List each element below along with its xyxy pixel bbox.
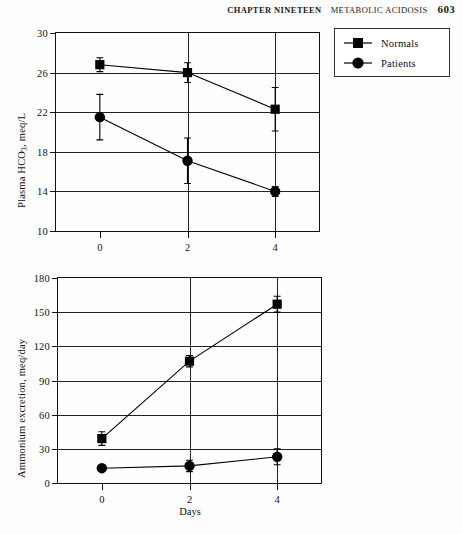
running-head-section: METABOLIC ACIDOSIS (331, 5, 428, 15)
error-bar (96, 58, 103, 72)
y-axis-tick-label: 30 (39, 443, 50, 454)
circle-marker-icon (343, 56, 373, 70)
x-axis-title: Days (179, 506, 201, 517)
error-bar (96, 94, 103, 140)
error-bar (98, 432, 105, 446)
legend-label-normals: Normals (381, 38, 419, 49)
plot-area-bottom: 0306090120150180 024 (57, 277, 322, 484)
y-axis-title-top-tail: , meq/L (16, 113, 27, 147)
y-axis-tick (52, 483, 58, 484)
y-axis-tick (50, 112, 56, 113)
x-axis-tick (277, 483, 278, 490)
y-axis-tick-label: 10 (37, 226, 48, 237)
x-axis-tick-label: 2 (185, 242, 190, 253)
gridline-vertical (275, 33, 276, 231)
y-axis-tick (50, 33, 56, 34)
legend-item-patients: Patients (343, 53, 449, 73)
page-number: 603 (438, 3, 455, 15)
y-axis-tick (50, 73, 56, 74)
y-axis-tick-label: 22 (37, 107, 48, 118)
y-axis-tick-label: 150 (34, 307, 50, 318)
gridline-vertical (188, 33, 189, 231)
running-head: CHAPTER NINETEENMETABOLIC ACIDOSIS603 (0, 3, 463, 15)
chart-ammonium-excretion: Ammonium excretion, meq/day 030609012015… (0, 268, 463, 530)
y-axis-tick (52, 381, 58, 382)
y-axis-tick-label: 0 (45, 478, 50, 489)
y-axis-tick (52, 415, 58, 416)
legend-label-patients: Patients (381, 58, 416, 69)
data-point-circle (97, 463, 107, 473)
error-bar (98, 466, 105, 471)
x-axis-tick-label: 4 (275, 494, 280, 505)
y-axis-tick (50, 231, 56, 232)
y-axis-tick (52, 449, 58, 450)
x-axis-tick (188, 231, 189, 238)
y-axis-tick-label: 60 (39, 409, 50, 420)
y-axis-tick-label: 26 (37, 67, 48, 78)
legend-item-normals: Normals (343, 33, 449, 53)
y-axis-tick-label: 30 (37, 28, 48, 39)
y-axis-title-top: Plasma HCO3, meq/L (16, 113, 27, 208)
x-axis-tick-label: 2 (187, 494, 192, 505)
data-point-circle (95, 112, 105, 122)
chart-legend: Normals Patients (334, 28, 450, 77)
x-axis-tick (275, 231, 276, 238)
y-axis-title-top-base: Plasma HCO (16, 151, 27, 208)
data-point-square (95, 60, 104, 69)
y-axis-title-bottom: Ammonium excretion, meq/day (16, 339, 27, 478)
x-axis-tick (100, 231, 101, 238)
x-axis-tick-label: 0 (99, 494, 104, 505)
running-head-chapter: CHAPTER NINETEEN (227, 5, 321, 15)
data-point-square (97, 434, 106, 443)
x-axis-tick-label: 0 (97, 242, 102, 253)
y-axis-tick (52, 346, 58, 347)
gridline-vertical (190, 278, 191, 483)
y-axis-tick (50, 191, 56, 192)
y-axis-tick (52, 312, 58, 313)
y-axis-tick-label: 90 (39, 375, 50, 386)
plot-area-top: 101418222630 024 (55, 32, 320, 232)
square-marker-icon (343, 36, 373, 50)
y-axis-tick (50, 152, 56, 153)
x-axis-tick-label: 4 (273, 242, 278, 253)
y-axis-tick-label: 18 (37, 146, 48, 157)
y-axis-tick-label: 120 (34, 341, 50, 352)
y-axis-tick-label: 14 (37, 186, 48, 197)
y-axis-tick-label: 180 (34, 273, 50, 284)
y-axis-title-top-subscript: 3 (20, 147, 29, 151)
y-axis-tick (52, 278, 58, 279)
x-axis-tick (102, 483, 103, 490)
x-axis-tick (190, 483, 191, 490)
figure-page: CHAPTER NINETEENMETABOLIC ACIDOSIS603 Pl… (0, 0, 463, 534)
gridline-vertical (277, 278, 278, 483)
